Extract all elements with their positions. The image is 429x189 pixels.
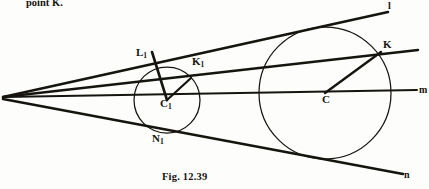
point-label-K1: K1 [192,56,204,67]
line-n [3,99,403,174]
segment-l1-c1 [152,52,167,100]
point-label-L1: L1 [136,47,147,58]
figure-caption: Fig. 12.39 [162,172,207,183]
figure-page: point K. L1 K1 C1 N1 K C l m n Fig. 12.3… [0,0,429,189]
geometry-figure [0,0,429,189]
point-label-K: K [383,39,392,50]
line-label-m: m [419,85,427,95]
line-label-l: l [388,1,391,11]
point-label-N1: N1 [152,133,164,144]
line-label-n: n [404,170,410,180]
line-secant-k [3,50,418,97]
radius-c1-k1 [167,78,191,100]
point-label-C1: C1 [160,98,172,109]
point-label-C: C [322,94,330,105]
